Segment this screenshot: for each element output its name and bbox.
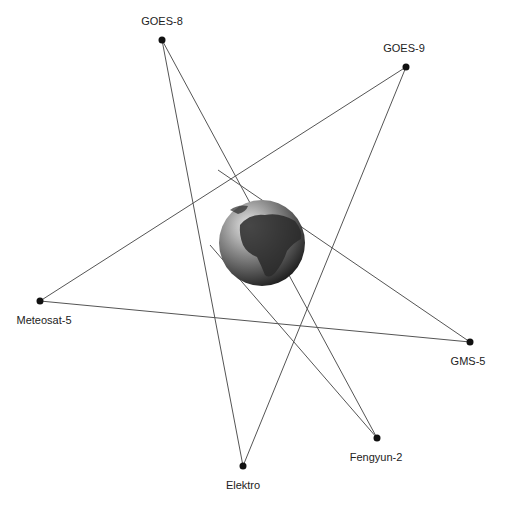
satellite-label-goes8: GOES-8 xyxy=(141,15,183,27)
satellite-node-goes8 xyxy=(159,37,166,44)
connection-line xyxy=(40,67,406,301)
earth-globe-icon xyxy=(219,200,305,286)
satellite-label-meteosat5: Meteosat-5 xyxy=(16,314,71,326)
satellite-node-fengyun2 xyxy=(374,435,381,442)
connection-line xyxy=(40,301,470,342)
satellite-network-diagram xyxy=(0,0,505,505)
satellite-node-goes9 xyxy=(403,64,410,71)
satellite-label-elektro: Elektro xyxy=(226,479,260,491)
satellite-node-meteosat5 xyxy=(37,298,44,305)
satellite-label-gms5: GMS-5 xyxy=(451,355,486,367)
satellite-node-elektro xyxy=(240,463,247,470)
satellite-label-fengyun2: Fengyun-2 xyxy=(350,451,403,463)
satellite-label-goes9: GOES-9 xyxy=(383,42,425,54)
satellite-node-gms5 xyxy=(467,339,474,346)
